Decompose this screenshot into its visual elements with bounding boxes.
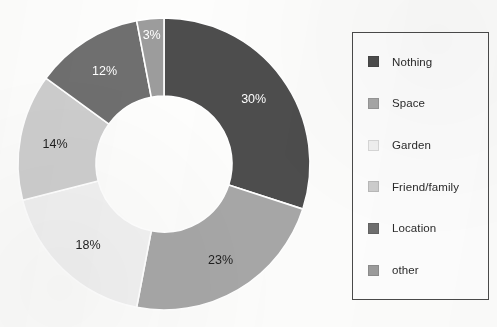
legend-item-space[interactable]: Space xyxy=(353,92,488,114)
donut-chart-svg: 30%23%18%14%12%3% xyxy=(0,0,340,327)
slice-data-label-friend-family: 14% xyxy=(43,137,68,151)
slice-data-label-garden: 18% xyxy=(76,238,101,252)
chart-page: 30%23%18%14%12%3% NothingSpaceGardenFrie… xyxy=(0,0,497,327)
legend-item-garden[interactable]: Garden xyxy=(353,134,488,156)
legend-label-friend-family: Friend/family xyxy=(392,181,459,193)
donut-slice-space[interactable] xyxy=(137,185,303,310)
slice-data-label-space: 23% xyxy=(208,253,233,267)
legend-label-space: Space xyxy=(392,97,425,109)
legend-label-garden: Garden xyxy=(392,139,431,151)
legend-item-nothing[interactable]: Nothing xyxy=(353,51,488,73)
legend-label-location: Location xyxy=(392,222,436,234)
slice-data-label-other: 3% xyxy=(143,28,161,42)
legend-item-other[interactable]: other xyxy=(353,259,488,281)
slice-data-label-location: 12% xyxy=(92,64,117,78)
donut-slice-nothing[interactable] xyxy=(164,18,310,209)
legend-label-nothing: Nothing xyxy=(392,56,432,68)
donut-chart: 30%23%18%14%12%3% xyxy=(0,0,340,327)
legend-item-list: NothingSpaceGardenFriend/familyLocationo… xyxy=(353,33,488,299)
legend-label-other: other xyxy=(392,264,419,276)
legend-swatch-location xyxy=(368,223,379,234)
chart-legend: NothingSpaceGardenFriend/familyLocationo… xyxy=(352,32,489,300)
legend-swatch-space xyxy=(368,98,379,109)
legend-swatch-nothing xyxy=(368,56,379,67)
slice-data-label-nothing: 30% xyxy=(241,92,266,106)
donut-slice-group xyxy=(18,18,310,310)
legend-swatch-garden xyxy=(368,140,379,151)
legend-swatch-friend-family xyxy=(368,181,379,192)
legend-item-location[interactable]: Location xyxy=(353,217,488,239)
legend-item-friend-family[interactable]: Friend/family xyxy=(353,176,488,198)
legend-swatch-other xyxy=(368,265,379,276)
